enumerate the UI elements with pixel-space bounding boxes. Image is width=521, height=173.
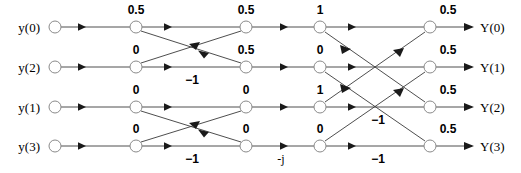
node-value-c3-r0: 0.5 (238, 4, 255, 16)
arrowhead-out-r2 (464, 103, 474, 111)
arrowhead-s3-r3 (348, 142, 356, 150)
node-value-c2-r0: 0.5 (128, 4, 145, 16)
node-c5-r1[interactable] (424, 61, 436, 73)
stage-0-edges (61, 23, 130, 150)
arrowhead-s1-r2 (164, 103, 172, 111)
node-c1-r2[interactable] (49, 101, 61, 113)
node-c4-r2[interactable] (314, 101, 326, 113)
node-value-c3-r2: 0 (243, 84, 250, 96)
node-c1-r0[interactable] (49, 21, 61, 33)
arrowhead-s3-r0 (348, 23, 356, 31)
arrowhead-s1-r1 (164, 63, 172, 71)
arrowhead-s2-r0 (280, 23, 288, 31)
arrowhead-out-r1 (464, 63, 474, 71)
node-value-c3-r1: 0.5 (238, 44, 255, 56)
arrowhead-s3-r1 (348, 63, 356, 71)
node-value-c2-r2: 0 (133, 84, 140, 96)
node-column-5 (424, 21, 436, 152)
arrowhead-s1-r3 (164, 142, 172, 150)
node-c2-r1[interactable] (130, 61, 142, 73)
node-column-1 (49, 21, 61, 152)
arrowhead-s0-r3 (78, 142, 86, 150)
arrowhead-s0-r1 (78, 63, 86, 71)
node-c1-r3[interactable] (49, 140, 61, 152)
arrowhead-s1-r0 (164, 23, 172, 31)
arrowhead-s3-r2 (348, 103, 356, 111)
twiddle-label-stage1-row3: −1 (185, 153, 199, 165)
node-value-c5-r1: 0.5 (440, 44, 457, 56)
node-c3-r3[interactable] (240, 140, 252, 152)
arrowhead-out-r3 (464, 142, 474, 150)
node-value-c4-r1: 0 (317, 44, 324, 56)
node-c5-r3[interactable] (424, 140, 436, 152)
arrowhead-s0-r0 (78, 23, 86, 31)
stage-2-edges (252, 23, 314, 150)
arrowhead-out-r0 (464, 23, 474, 31)
arrowhead-s1-diag-up-a (189, 42, 200, 50)
twiddle-label-minus-j: -j (277, 153, 284, 165)
twiddle-label-stage3-row2: −1 (371, 114, 385, 126)
node-value-c5-r2: 0.5 (440, 84, 457, 96)
input-label-y0: y(0) (18, 21, 40, 34)
output-label-Y3: Y(3) (480, 140, 505, 153)
node-value-c4-r0: 1 (317, 4, 324, 16)
stage-3-edges (325, 23, 425, 150)
node-value-c3-r3: 0 (243, 123, 250, 135)
node-c5-r0[interactable] (424, 21, 436, 33)
node-c4-r3[interactable] (314, 140, 326, 152)
arrowhead-s2-r2 (280, 103, 288, 111)
input-label-y2: y(2) (18, 61, 40, 74)
node-c3-r2[interactable] (240, 101, 252, 113)
arrowhead-s3-diag-up-a (393, 48, 404, 57)
twiddle-label-stage3-row3: −1 (371, 153, 385, 165)
node-c2-r0[interactable] (130, 21, 142, 33)
fft-butterfly-diagram: y(0) y(2) y(1) y(3) Y(0) Y(1) Y(2) Y(3) … (0, 0, 521, 173)
node-c3-r0[interactable] (240, 21, 252, 33)
node-value-c2-r3: 0 (133, 123, 140, 135)
node-c2-r2[interactable] (130, 101, 142, 113)
output-label-Y1: Y(1) (480, 61, 505, 74)
output-label-Y2: Y(2) (480, 101, 505, 114)
arrowhead-s2-r1 (280, 63, 288, 71)
node-value-c5-r0: 0.5 (440, 4, 457, 16)
output-label-Y0: Y(0) (480, 21, 505, 34)
arrowhead-s2-r3 (280, 142, 288, 150)
node-c5-r2[interactable] (424, 101, 436, 113)
node-value-c4-r2: 1 (317, 84, 324, 96)
arrowhead-s0-r2 (78, 103, 86, 111)
node-value-c4-r3: 0 (317, 123, 324, 135)
node-value-c2-r1: 0 (133, 44, 140, 56)
node-c2-r3[interactable] (130, 140, 142, 152)
node-c3-r1[interactable] (240, 61, 252, 73)
node-c1-r1[interactable] (49, 61, 61, 73)
node-c4-r1[interactable] (314, 61, 326, 73)
node-c4-r0[interactable] (314, 21, 326, 33)
input-label-y1: y(1) (18, 101, 40, 114)
twiddle-label-stage1-row1: −1 (185, 74, 199, 86)
node-value-c5-r3: 0.5 (440, 123, 457, 135)
arrowhead-s1-diag-down-a (198, 51, 209, 59)
input-label-y3: y(3) (18, 140, 40, 153)
